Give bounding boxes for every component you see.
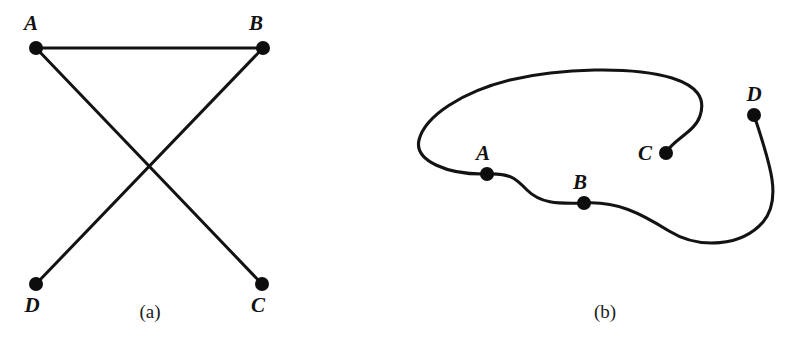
vertex-label-b-C: C: [638, 141, 653, 165]
vertex-label-b-D: D: [745, 82, 761, 106]
vertex-b-node-D[interactable]: [747, 108, 761, 122]
caption-panel-a: (a): [139, 301, 160, 323]
vertex-label-a-A: A: [22, 11, 38, 35]
vertex-label-b-B: B: [572, 170, 587, 194]
vertex-b-node-C[interactable]: [659, 146, 673, 160]
vertex-b-node-A[interactable]: [480, 167, 494, 181]
panel-a-canvas: A B C D (a): [0, 0, 400, 352]
vertex-label-a-D: D: [23, 293, 39, 317]
panel-b-curved-drawing: A B C D (b): [400, 0, 802, 352]
vertex-label-b-A: A: [474, 141, 490, 165]
vertex-a-node-D[interactable]: [29, 277, 43, 291]
vertex-a-node-A[interactable]: [29, 41, 43, 55]
vertex-a-node-C[interactable]: [255, 277, 269, 291]
figure-root: A B C D (a) A B C D (b): [0, 0, 802, 352]
vertex-label-a-B: B: [248, 11, 263, 35]
caption-panel-b: (b): [594, 301, 616, 323]
vertex-label-a-C: C: [251, 293, 266, 317]
panel-b-canvas: A B C D (b): [400, 0, 802, 352]
panel-a-straight-line-drawing: A B C D (a): [0, 0, 400, 352]
vertex-b-node-B[interactable]: [577, 196, 591, 210]
curve-path-through-a-b-c-d: [419, 70, 773, 243]
vertex-a-node-B[interactable]: [256, 41, 270, 55]
